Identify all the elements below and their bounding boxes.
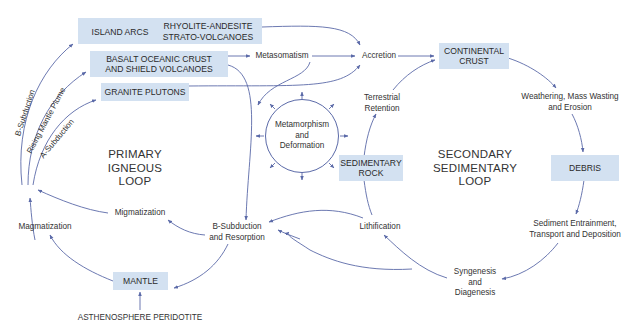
weathering-label: Weathering, Mass Wasting and Erosion — [510, 92, 630, 113]
asthenosphere-label: ASTHENOSPHERE PERIDOTITE — [70, 313, 210, 324]
granite-plutons-box: GRANITE PLUTONS — [101, 83, 189, 101]
accretion-label: Accretion — [359, 51, 399, 62]
primary-igneous-loop-title: PRIMARY IGNEOUS LOOP — [100, 148, 170, 189]
metamorphism-label: Metamorphism and Deformation — [262, 120, 342, 152]
migmatization-label: Migmatization — [110, 208, 170, 219]
sedimentary-rock-box: SEDIMENTARY ROCK — [339, 155, 403, 181]
debris-box: DEBRIS — [551, 155, 619, 181]
sediment-entrainment-label: Sediment Entrainment, Transport and Depo… — [520, 219, 630, 240]
b-subduction-resorption-label: B-Subduction and Resorption — [200, 222, 274, 243]
lithification-label: Lithification — [355, 222, 405, 233]
syngenesis-label: Syngenesis and Diagenesis — [445, 267, 505, 299]
magmatization-label: Magmatization — [15, 222, 75, 233]
basalt-box: BASALT OCEANIC CRUST AND SHIELD VOLCANOE… — [90, 51, 228, 77]
terrestrial-retention-label: Terrestrial Retention — [352, 93, 412, 114]
rhyolite-label: RHYOLITE-ANDESITE STRATO-VOLCANOES — [156, 21, 260, 42]
metasomatism-label: Metasomatism — [252, 51, 312, 62]
island-arcs-label: ISLAND ARCS — [90, 27, 150, 38]
continental-crust-box: CONTINENTAL CRUST — [439, 43, 509, 69]
mantle-box: MANTLE — [113, 272, 168, 290]
secondary-sedimentary-loop-title: SECONDARY SEDIMENTARY LOOP — [430, 148, 520, 189]
